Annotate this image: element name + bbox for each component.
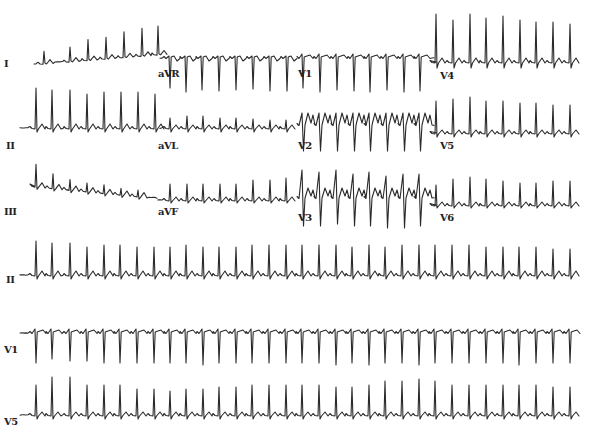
lead-label-ii: II [6,140,14,151]
lead-v5-trace [430,97,579,137]
lead-label-i: I [4,58,8,69]
lead-v1-trace [20,329,580,365]
lead-label-v3: V3 [298,212,312,223]
lead-label-avf: aVF [158,206,178,217]
lead-i-trace [34,26,167,64]
lead-label-v4: V4 [440,70,454,81]
lead-v6-trace [430,177,579,208]
ecg-tracing-canvas [0,0,589,443]
lead-label-v2: V2 [298,140,312,151]
lead-label-avr: aVR [158,68,179,79]
lead-label-iii: III [4,206,17,217]
lead-label-v5: V5 [4,416,18,427]
lead-label-v1: V1 [4,344,18,355]
lead-v1-trace [297,54,434,92]
lead-label-v1: V1 [298,68,312,79]
lead-v3-trace [297,170,434,228]
lead-label-avl: aVL [158,140,178,151]
lead-label-v5: V5 [440,140,454,151]
lead-ii-trace [20,88,164,132]
lead-avl-trace [160,116,295,132]
lead-v4-trace [430,14,579,68]
lead-label-v6: V6 [440,212,454,223]
lead-avf-trace [158,178,295,203]
lead-avr-trace [160,56,297,92]
lead-iii-trace [30,164,157,199]
lead-v2-trace [297,113,434,151]
lead-ii-trace [20,241,579,279]
lead-label-ii: II [6,274,14,285]
lead-v5-trace [20,377,579,419]
